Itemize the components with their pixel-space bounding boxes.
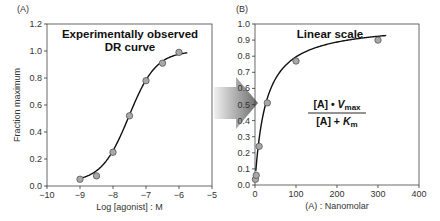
chart-title: DR curve [105,41,156,53]
y-tick-label: 0.4 [29,127,42,137]
y-tick-label: 0.0 [237,180,250,190]
data-point [253,172,259,178]
y-tick-label: 0.8 [29,73,42,83]
y-tick-label: 0.6 [29,100,42,110]
panel-a-plot: −10−9−8−7−6−50.00.20.40.60.81.01.2Log [a… [12,4,217,212]
data-point [77,176,83,182]
y-tick-label: 1.0 [237,19,250,29]
chart-title: Linear scale [297,28,363,40]
data-point [256,143,262,149]
data-point [264,100,270,106]
x-tick-label: −8 [108,190,118,200]
panel-label: (A) [17,4,29,14]
x-tick-label: −7 [141,190,151,200]
y-tick-label: 0.8 [237,51,250,61]
y-tick-label: 0.9 [237,35,250,45]
y-tick-label: 0.7 [237,67,250,77]
y-tick-label: 0.1 [237,164,250,174]
x-tick-label: −5 [207,190,217,200]
y-tick-label: 1.2 [29,19,42,29]
data-point [293,58,299,64]
x-tick-label: −10 [39,190,54,200]
x-tick-label: −9 [75,190,85,200]
transform-arrow-icon [214,77,258,129]
formula-denominator: [A] + Km [316,115,357,129]
panel-label: (B) [236,4,248,14]
formula-numerator: [A] • Vmax [313,98,361,112]
data-point [176,49,182,55]
y-tick-label: 0.5 [237,100,250,110]
x-tick-label: 100 [288,189,303,199]
data-point [110,149,116,155]
data-point [159,60,165,66]
x-axis-label: (A) : Nanomolar [305,201,369,211]
y-tick-label: 0.2 [237,148,250,158]
x-tick-label: 400 [411,189,426,199]
x-tick-label: 200 [329,189,344,199]
x-tick-label: −6 [174,190,184,200]
data-point [126,113,132,119]
y-tick-label: 1.0 [29,46,42,56]
data-point [143,78,149,84]
chart-figure: −10−9−8−7−6−50.00.20.40.60.81.01.2Log [a… [0,0,440,221]
y-tick-label: 0.0 [29,181,42,191]
chart-title: Experimentally observed [62,28,198,40]
x-tick-label: 0 [252,189,257,199]
y-tick-label: 0.3 [237,132,250,142]
y-tick-label: 0.2 [29,154,42,164]
panel-b-plot: 01002003004000.00.10.20.30.40.50.60.70.8… [236,4,427,211]
data-point [375,37,381,43]
x-tick-label: 300 [370,189,385,199]
y-tick-label: 0.6 [237,83,250,93]
fit-curve [80,53,187,179]
x-axis-label: Log [agonist] : M [96,202,163,212]
y-axis-label: Fraction maximum [12,68,22,142]
data-point [93,173,99,179]
y-tick-label: 0.4 [237,116,250,126]
